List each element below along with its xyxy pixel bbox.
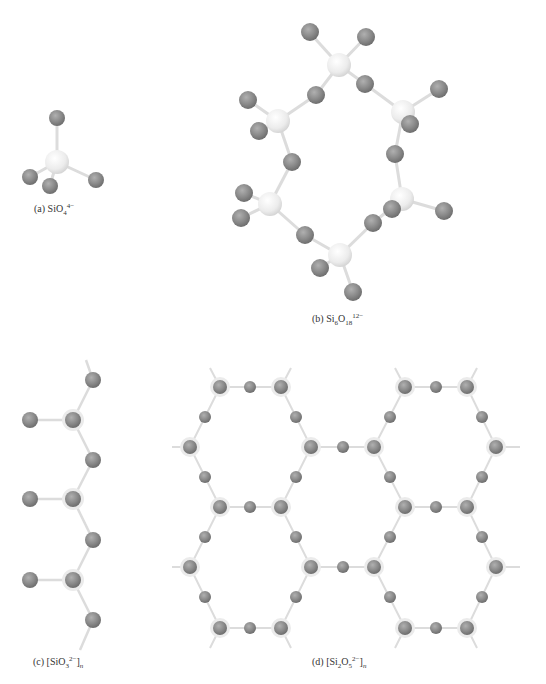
caption-b: (b) Si6O1812− bbox=[312, 312, 363, 327]
caption-d-text: (d) [Si bbox=[312, 656, 338, 667]
caption-d-mid: O bbox=[341, 656, 348, 667]
caption-d-sub: 5 bbox=[349, 662, 353, 670]
caption-c-text: (c) [SiO bbox=[33, 656, 66, 667]
caption-d-sup: 2− bbox=[352, 655, 359, 663]
caption-a-sup: 4− bbox=[67, 202, 74, 210]
caption-b-text: (b) Si bbox=[312, 313, 335, 324]
caption-d: (d) [Si2O52−]n bbox=[312, 655, 366, 670]
panel-b-atoms bbox=[232, 23, 453, 301]
caption-b-sup: 12− bbox=[352, 312, 363, 320]
caption-d-n: n bbox=[363, 662, 367, 670]
caption-c: (c) [SiO32−]n bbox=[33, 655, 83, 670]
caption-b-sub: 18 bbox=[345, 319, 352, 327]
caption-c-n: n bbox=[80, 662, 84, 670]
caption-a-sub: 4 bbox=[63, 209, 67, 217]
panel-c-bonds bbox=[30, 360, 93, 650]
panel-d-si-halos bbox=[180, 377, 506, 638]
caption-a: (a) SiO44− bbox=[34, 202, 74, 217]
panel-a-atoms bbox=[22, 110, 104, 194]
silicate-structures-diagram bbox=[0, 0, 546, 684]
caption-c-sub: 3 bbox=[66, 662, 70, 670]
caption-a-text: (a) SiO bbox=[34, 203, 63, 214]
